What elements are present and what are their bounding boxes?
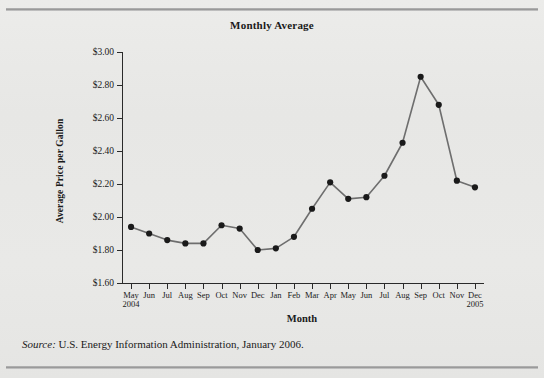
y-tick-label: $3.00 [68,47,114,57]
y-tick-label: $2.20 [68,179,114,189]
data-point-marker [146,230,152,236]
x-tick-mark [330,284,331,289]
x-tick-mark [348,284,349,289]
source-note: Source: U.S. Energy Information Administ… [22,338,304,350]
x-axis-year-label: 2005 [466,299,483,309]
x-tick-mark [131,284,132,289]
x-tick-label: Feb [288,290,301,300]
x-tick-label: Jun [143,290,155,300]
x-tick-mark [421,284,422,289]
data-point-marker [200,240,206,246]
data-point-marker [345,196,351,202]
data-point-marker [128,224,134,230]
y-axis-title: Average Price per Gallon [55,81,65,261]
data-point-marker [255,247,261,253]
data-point-marker [363,194,369,200]
y-tick-mark [117,151,122,152]
y-tick-label: $1.80 [68,245,114,255]
y-tick-mark [117,184,122,185]
x-tick-mark [240,284,241,289]
x-tick-label: Jul [379,290,389,300]
x-tick-mark [258,284,259,289]
x-tick-label: Aug [178,290,193,300]
x-axis-year-label: 2004 [123,299,140,309]
data-point-marker [327,179,333,185]
y-tick-mark [117,217,122,218]
y-tick-label: $2.60 [68,113,114,123]
data-point-marker [381,173,387,179]
x-tick-label: May [340,290,356,300]
x-tick-label: Oct [433,290,445,300]
data-point-marker [237,225,243,231]
x-tick-label: Nov [232,290,247,300]
y-tick-mark [117,85,122,86]
data-point-marker [309,206,315,212]
x-tick-label: Sep [197,290,210,300]
x-tick-mark [294,284,295,289]
x-tick-label: Nov [450,290,465,300]
series-line [131,77,475,250]
data-point-marker [218,222,224,228]
x-tick-mark [366,284,367,289]
plot-area: Average Price per Gallon $1.60$1.80$2.00… [0,0,544,378]
data-point-marker [273,245,279,251]
data-point-marker [164,237,170,243]
y-tick-label: $2.80 [68,80,114,90]
x-tick-mark [403,284,404,289]
series-markers [128,74,478,253]
figure-page: Monthly Average Average Price per Gallon… [0,0,544,378]
y-tick-mark [117,52,122,53]
data-point-marker [418,74,424,80]
y-tick-label: $2.00 [68,212,114,222]
x-axis-title: Month [122,313,482,324]
data-point-marker [436,102,442,108]
x-tick-label: Apr [324,290,337,300]
x-tick-label: Jun [360,290,372,300]
x-tick-mark [149,284,150,289]
x-tick-label: Sep [414,290,427,300]
y-tick-mark [117,118,122,119]
x-tick-label: Dec [251,290,265,300]
y-axis-line [122,52,123,284]
y-tick-label: $1.60 [68,278,114,288]
x-tick-mark [439,284,440,289]
x-tick-mark [384,284,385,289]
x-tick-mark [475,284,476,289]
data-point-marker [454,178,460,184]
data-point-marker [472,184,478,190]
x-tick-mark [457,284,458,289]
data-point-marker [182,240,188,246]
x-axis-line [122,283,484,284]
x-tick-label: Oct [215,290,227,300]
x-tick-label: Mar [305,290,319,300]
y-tick-mark [117,283,122,284]
y-tick-mark [117,250,122,251]
x-tick-mark [185,284,186,289]
x-tick-mark [312,284,313,289]
data-point-marker [291,234,297,240]
x-tick-mark [276,284,277,289]
x-tick-mark [222,284,223,289]
x-tick-label: Jul [162,290,172,300]
x-tick-mark [167,284,168,289]
data-point-marker [399,140,405,146]
x-tick-label: Jan [270,290,281,300]
y-tick-label: $2.40 [68,146,114,156]
source-label: Source: [22,338,56,350]
x-tick-label: Aug [395,290,410,300]
x-tick-mark [203,284,204,289]
source-text: U.S. Energy Information Administration, … [56,338,304,350]
